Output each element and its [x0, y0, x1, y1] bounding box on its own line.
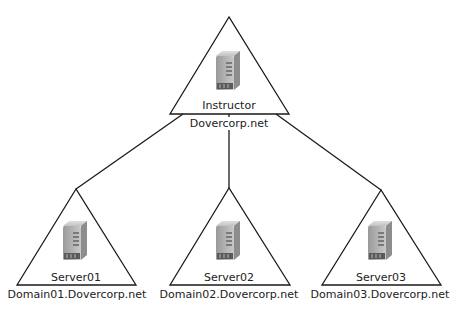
domain02-domain-label: Domain02.Dovercorp.net [158, 288, 301, 301]
root-host-label: Instructor [202, 99, 255, 112]
domain03-domain-label: Domain03.Dovercorp.net [309, 288, 452, 301]
server-icon [216, 51, 240, 90]
server-icon [216, 221, 240, 260]
root-domain-label: Dovercorp.net [188, 117, 271, 130]
domain-tree-diagram [0, 0, 457, 312]
domain01-domain-label: Domain01.Dovercorp.net [6, 288, 149, 301]
connector-line-domain03 [276, 114, 381, 190]
server-icon [63, 221, 87, 260]
domain03-host-label: Server03 [356, 271, 406, 284]
domain02-host-label: Server02 [204, 271, 254, 284]
connector-line-domain01 [76, 114, 183, 189]
domain01-host-label: Server01 [51, 271, 101, 284]
server-icon [368, 221, 392, 260]
